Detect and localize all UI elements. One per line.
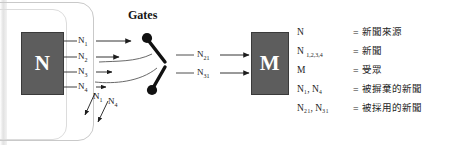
gates-title: Gates xyxy=(128,8,157,23)
rejected-label-n4-sub: 4 xyxy=(115,102,118,108)
output-label-n21-sub: 21 xyxy=(204,55,210,61)
output-stub-lines xyxy=(176,55,194,73)
legend-definition-text: 新聞 xyxy=(362,45,382,56)
legend-symbol-base: M xyxy=(297,65,305,75)
flow-label-n2: N2 xyxy=(78,52,88,63)
source-flow-arrows xyxy=(96,41,131,87)
flow-label-n3-sub: 3 xyxy=(85,72,88,78)
rejected-label-n1-sub: 1 xyxy=(100,97,103,103)
legend-definition-text: 受眾 xyxy=(362,64,382,75)
source-stub-lines xyxy=(62,41,77,87)
output-label-n21: N21 xyxy=(197,50,210,61)
legend: N =新聞來源 N 1,2,3,4 =新聞 M =受眾 N₁, N₄ =被摒棄的… xyxy=(297,24,457,119)
legend-symbol-base: N xyxy=(297,27,304,37)
gate-lower xyxy=(147,67,165,95)
legend-equals: = xyxy=(353,45,359,56)
flow-label-n2-sub: 2 xyxy=(85,57,88,63)
legend-symbol: N₁, N₄ xyxy=(297,84,353,96)
legend-symbol: N xyxy=(297,27,353,39)
legend-equals: = xyxy=(353,64,359,75)
deflection-curves xyxy=(95,54,157,83)
legend-definition: =被採用的新聞 xyxy=(353,100,422,114)
legend-symbol: M xyxy=(297,65,353,77)
output-label-n31: N31 xyxy=(197,68,210,79)
legend-definition: =新聞來源 xyxy=(353,24,402,38)
legend-equals: = xyxy=(353,102,359,113)
legend-definition: =受眾 xyxy=(353,62,382,76)
legend-definition: =新聞 xyxy=(353,43,382,57)
output-label-n31-sub: 31 xyxy=(204,73,210,79)
legend-definition: =被摒棄的新聞 xyxy=(353,81,422,95)
gate-upper xyxy=(142,33,165,62)
legend-equals: = xyxy=(353,26,359,37)
legend-row: N₂₁, N₃₁ =被採用的新聞 xyxy=(297,100,457,119)
legend-definition-text: 被摒棄的新聞 xyxy=(362,83,422,94)
legend-symbol-sub: 1,2,3,4 xyxy=(306,52,323,58)
news-source-node-label: N xyxy=(35,51,51,76)
rejected-label-n4: N4 xyxy=(108,97,118,108)
audience-node-label: M xyxy=(260,51,280,76)
legend-symbol-base: N₁, N₄ xyxy=(297,84,322,94)
output-flow-arrows xyxy=(220,55,249,73)
flow-label-n4: N4 xyxy=(78,82,88,93)
legend-symbol-base: N₂₁, N₃₁ xyxy=(297,103,329,113)
rejected-label-n1: N1 xyxy=(93,92,103,103)
legend-definition-text: 被採用的新聞 xyxy=(362,102,422,113)
legend-definition-text: 新聞來源 xyxy=(362,26,402,37)
legend-row: N 1,2,3,4 =新聞 xyxy=(297,43,457,62)
audience-node: M xyxy=(251,32,289,95)
flow-label-n4-sub: 4 xyxy=(85,87,88,93)
flow-label-n1: N1 xyxy=(78,36,88,47)
legend-equals: = xyxy=(353,83,359,94)
flow-label-n1-sub: 1 xyxy=(85,41,88,47)
legend-row: N =新聞來源 xyxy=(297,24,457,43)
news-source-node: N xyxy=(21,32,64,95)
legend-symbol: N₂₁, N₃₁ xyxy=(297,103,353,115)
flow-label-n3: N3 xyxy=(78,67,88,78)
legend-row: N₁, N₄ =被摒棄的新聞 xyxy=(297,81,457,100)
legend-symbol-base: N xyxy=(297,46,304,56)
legend-symbol: N 1,2,3,4 xyxy=(297,46,353,58)
figure-canvas: Gates N M N1 N2 N3 N4 N1 N4 N21 N31 N =新… xyxy=(0,0,459,145)
legend-row: M =受眾 xyxy=(297,62,457,81)
